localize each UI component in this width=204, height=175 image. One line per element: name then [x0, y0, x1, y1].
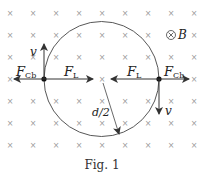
- svg-text:×: ×: [122, 9, 129, 18]
- radius-label: d/2: [92, 106, 110, 119]
- svg-text:×: ×: [53, 53, 60, 62]
- svg-text:×: ×: [191, 141, 198, 150]
- f-cb-left-label: FCb: [15, 64, 36, 80]
- svg-text:×: ×: [145, 119, 152, 128]
- f-l-left-label: FL: [63, 64, 79, 80]
- svg-text:×: ×: [30, 119, 37, 128]
- svg-text:×: ×: [76, 31, 83, 40]
- b-field-indicator: B: [167, 28, 188, 42]
- svg-text:×: ×: [30, 141, 37, 150]
- svg-text:×: ×: [53, 97, 60, 106]
- svg-text:×: ×: [7, 31, 14, 40]
- svg-text:×: ×: [145, 9, 152, 18]
- svg-text:×: ×: [30, 97, 37, 106]
- svg-text:×: ×: [168, 141, 175, 150]
- svg-text:×: ×: [168, 53, 175, 62]
- svg-text:×: ×: [122, 53, 129, 62]
- svg-text:×: ×: [99, 75, 106, 84]
- svg-text:×: ×: [76, 119, 83, 128]
- f-cb-right-label: FCb: [163, 64, 184, 80]
- svg-text:×: ×: [122, 97, 129, 106]
- svg-text:×: ×: [99, 119, 106, 128]
- svg-text:×: ×: [168, 119, 175, 128]
- svg-text:×: ×: [145, 31, 152, 40]
- svg-text:×: ×: [191, 53, 198, 62]
- svg-text:×: ×: [7, 119, 14, 128]
- v-bottom-label: v: [165, 104, 172, 118]
- svg-text:×: ×: [30, 9, 37, 18]
- svg-text:×: ×: [191, 75, 198, 84]
- physics-diagram: ××××××××× ×××××××× ××××××××× ××× ×××××××…: [0, 0, 204, 175]
- svg-text:×: ×: [122, 119, 129, 128]
- svg-text:×: ×: [53, 119, 60, 128]
- svg-text:×: ×: [99, 141, 106, 150]
- svg-text:×: ×: [53, 31, 60, 40]
- svg-text:×: ×: [53, 141, 60, 150]
- svg-text:×: ×: [191, 9, 198, 18]
- b-field-label: B: [177, 28, 187, 42]
- svg-text:×: ×: [30, 31, 37, 40]
- svg-text:×: ×: [76, 53, 83, 62]
- svg-text:×: ×: [145, 53, 152, 62]
- svg-text:×: ×: [7, 9, 14, 18]
- svg-text:×: ×: [53, 9, 60, 18]
- svg-text:×: ×: [99, 97, 106, 106]
- svg-text:×: ×: [99, 53, 106, 62]
- f-l-right-label: FL: [126, 64, 142, 80]
- svg-text:×: ×: [122, 31, 129, 40]
- svg-text:×: ×: [168, 9, 175, 18]
- svg-text:×: ×: [76, 97, 83, 106]
- svg-text:×: ×: [76, 9, 83, 18]
- svg-text:×: ×: [76, 141, 83, 150]
- svg-text:×: ×: [99, 9, 106, 18]
- svg-text:×: ×: [145, 141, 152, 150]
- svg-text:×: ×: [122, 141, 129, 150]
- svg-text:×: ×: [7, 53, 14, 62]
- svg-text:×: ×: [191, 97, 198, 106]
- svg-text:×: ×: [191, 31, 198, 40]
- svg-text:×: ×: [7, 141, 14, 150]
- v-top-label: v: [30, 45, 37, 59]
- svg-text:×: ×: [7, 75, 14, 84]
- svg-text:×: ×: [7, 97, 14, 106]
- svg-text:×: ×: [145, 97, 152, 106]
- figure-caption: Fig. 1: [0, 158, 204, 172]
- svg-text:×: ×: [99, 31, 106, 40]
- svg-text:×: ×: [191, 119, 198, 128]
